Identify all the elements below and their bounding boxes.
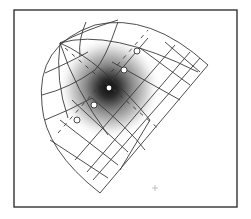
diagram-figure <box>0 0 251 219</box>
small-cross-mark <box>152 185 158 191</box>
center-point <box>107 86 112 91</box>
marker-2 <box>121 67 127 73</box>
marker-1 <box>134 48 140 54</box>
marker-3 <box>91 102 97 108</box>
marker-4 <box>74 117 80 123</box>
